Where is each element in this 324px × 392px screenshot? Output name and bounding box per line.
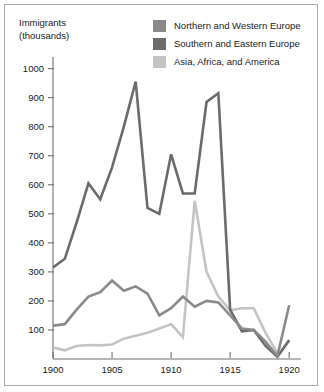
chart-frame: Immigrants(thousands) Northern and Weste… bbox=[4, 4, 318, 386]
y-tick-label: 800 bbox=[28, 121, 44, 132]
x-tick-label: 1920 bbox=[279, 364, 300, 375]
x-tick-label: 1910 bbox=[161, 364, 182, 375]
x-tick-label: 1905 bbox=[101, 364, 122, 375]
y-tick-label: 400 bbox=[28, 237, 44, 248]
y-tick-label: 900 bbox=[28, 92, 44, 103]
line-chart-plot: 1000900800700600500400300200100 19001905… bbox=[5, 5, 319, 387]
y-axis-ticks: 1000900800700600500400300200100 bbox=[23, 63, 54, 335]
y-tick-label: 100 bbox=[28, 324, 44, 335]
x-axis-ticks: 19001905191019151920 bbox=[42, 352, 299, 375]
y-tick-label: 600 bbox=[28, 179, 44, 190]
y-tick-label: 200 bbox=[28, 295, 44, 306]
series-line-southern-and-eastern-europe bbox=[53, 82, 289, 357]
y-tick-label: 500 bbox=[28, 208, 44, 219]
x-tick-label: 1915 bbox=[220, 364, 241, 375]
data-series-group bbox=[53, 82, 289, 357]
y-tick-label: 300 bbox=[28, 266, 44, 277]
y-tick-label: 700 bbox=[28, 150, 44, 161]
x-tick-label: 1900 bbox=[42, 364, 63, 375]
y-tick-label: 1000 bbox=[23, 63, 44, 74]
